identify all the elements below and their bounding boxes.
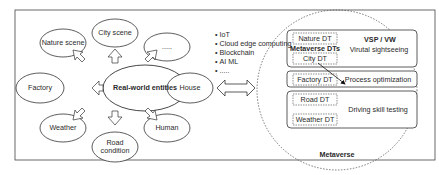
app-sightseeing: Virutal sightseeing [340,46,418,54]
entity-weather: Weather [41,124,85,132]
dt-nature: Nature DT [293,35,337,43]
dt-weather: Weather DT [293,116,337,124]
dt-road: Road DT [293,96,337,104]
entity-house: House [168,84,212,92]
diagram-canvas [0,0,439,175]
tech-item: ..... [215,66,291,75]
tech-item: AI ML [215,57,291,66]
entity-city: City scene [93,29,137,37]
entity-factory: Factory [18,84,62,92]
technology-list: IoT Cloud edge computing Blockchain AI M… [215,30,291,75]
app-process: Process optimization [338,76,418,84]
double-arrow [217,80,255,96]
tech-item: Blockchain [215,48,291,57]
metaverse-dts-label: Metaverse DTs [287,45,343,53]
tech-item: Cloud edge computing [215,39,291,48]
dt-factory: Factory DT [293,76,337,84]
tech-item: IoT [215,30,291,39]
metaverse-title: Metaverse [317,151,357,159]
entity-more: ..... [145,43,189,51]
entity-nature: Nature scene [41,39,85,47]
entity-road-line2: condition [93,147,137,155]
vsp-vw-label: VSP / VW [345,36,415,44]
dt-city: City DT [293,55,337,63]
app-driving: Driving skill testing [338,106,418,114]
entity-human: Human [145,124,189,132]
